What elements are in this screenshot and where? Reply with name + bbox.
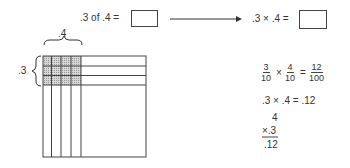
answer-box-right[interactable]	[299, 10, 327, 29]
times-equation-text: .3 × .4 =	[252, 14, 289, 24]
fraction-denominator: 10	[261, 73, 271, 83]
diagram-lines	[0, 0, 350, 168]
fraction-numerator: 12	[311, 62, 323, 73]
vertical-result: .12	[264, 140, 278, 150]
shaded-region	[43, 56, 81, 85]
arrow-icon	[170, 16, 242, 22]
label-point-three: .3	[18, 66, 26, 76]
fraction-numerator: 3	[263, 62, 270, 73]
fraction-denominator: 10	[285, 73, 295, 83]
equals-sign: =	[300, 68, 306, 78]
vertical-multiplier: ×.3	[262, 126, 276, 136]
fraction-denominator: 100	[309, 73, 324, 83]
fraction-12-100: 12 100	[309, 62, 324, 83]
fraction-numerator: 4	[287, 62, 294, 73]
vertical-top: 4	[272, 113, 278, 123]
label-point-four: .4	[58, 29, 66, 39]
decimal-product-line: .3 × .4 = .12	[262, 96, 315, 106]
times-sign: ×	[276, 68, 282, 78]
fraction-3-10: 3 10	[261, 62, 271, 83]
brace-left-icon	[32, 56, 41, 86]
fraction-4-10: 4 10	[285, 62, 295, 83]
